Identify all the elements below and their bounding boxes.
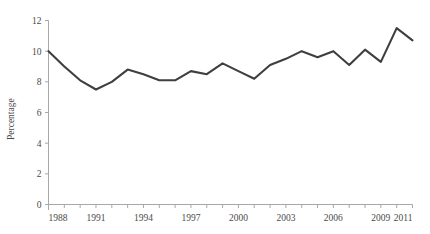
x-tick-label: 1997 (181, 213, 200, 223)
x-tick-label: 2011 (394, 213, 413, 223)
y-tick-label: 12 (32, 16, 42, 26)
x-tick-label: 1988 (49, 213, 68, 223)
y-tick-label: 4 (37, 139, 42, 149)
x-axis-tick-labels: 198819911994199720002003200620092011 (49, 213, 413, 223)
y-tick-label: 10 (32, 47, 42, 57)
y-tick-label: 6 (37, 108, 42, 118)
y-tick-label: 8 (37, 77, 42, 87)
x-tick-label: 2006 (324, 213, 343, 223)
y-axis: 024681012 (32, 16, 49, 210)
x-axis-ticks (49, 205, 413, 211)
chart-container: 024681012 198819911994199720002003200620… (0, 0, 430, 234)
y-tick-label: 0 (37, 200, 42, 210)
x-tick-label: 1994 (134, 213, 153, 223)
y-axis-title: Percentage (6, 98, 16, 140)
x-tick-label: 2003 (276, 213, 295, 223)
line-chart: 024681012 198819911994199720002003200620… (0, 0, 430, 234)
y-axis-tick-labels: 024681012 (32, 16, 42, 210)
y-axis-ticks (45, 21, 49, 205)
x-tick-label: 2009 (371, 213, 390, 223)
x-tick-label: 2000 (229, 213, 248, 223)
x-axis: 198819911994199720002003200620092011 (49, 205, 413, 223)
y-tick-label: 2 (37, 169, 42, 179)
x-tick-label: 1991 (86, 213, 105, 223)
data-series-line (49, 28, 413, 89)
